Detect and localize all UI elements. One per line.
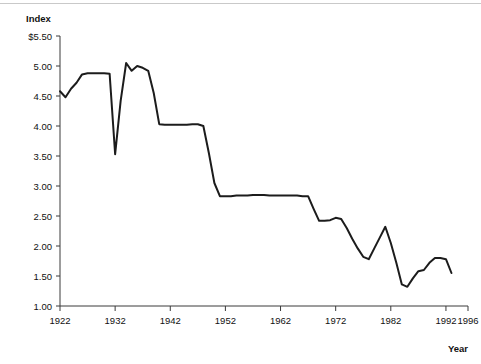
x-tick-label: 1996 bbox=[457, 315, 478, 326]
y-tick-label: 3.00 bbox=[34, 181, 53, 192]
x-tick-label: 1942 bbox=[160, 315, 181, 326]
y-tick-label: 1.00 bbox=[34, 301, 53, 312]
y-tick-label: 5.00 bbox=[34, 61, 53, 72]
y-tick-label: 4.50 bbox=[34, 91, 53, 102]
line-chart: $5.505.004.504.003.503.002.502.001.501.0… bbox=[0, 0, 481, 364]
y-axis-title: Index bbox=[26, 13, 52, 24]
y-tick-label: 3.50 bbox=[34, 151, 53, 162]
series-line-index bbox=[60, 63, 451, 287]
y-tick-label: 4.00 bbox=[34, 121, 53, 132]
x-tick-label: 1932 bbox=[105, 315, 126, 326]
y-tick-label: $5.50 bbox=[28, 31, 52, 42]
y-axis: $5.505.004.504.003.503.002.502.001.501.0… bbox=[28, 31, 60, 312]
x-tick-label: 1982 bbox=[380, 315, 401, 326]
y-tick-label: 1.50 bbox=[34, 271, 53, 282]
series-group bbox=[60, 63, 451, 287]
chart-canvas: $5.505.004.504.003.503.002.502.001.501.0… bbox=[0, 0, 481, 364]
x-tick-label: 1972 bbox=[325, 315, 346, 326]
y-tick-label: 2.00 bbox=[34, 241, 53, 252]
x-tick-label: 1922 bbox=[49, 315, 70, 326]
x-axis-title: Year bbox=[448, 343, 468, 354]
y-tick-label: 2.50 bbox=[34, 211, 53, 222]
x-axis: 192219321942195219621972198219921996 bbox=[49, 306, 478, 326]
x-tick-label: 1962 bbox=[270, 315, 291, 326]
x-tick-label: 1992 bbox=[435, 315, 456, 326]
x-tick-label: 1952 bbox=[215, 315, 236, 326]
